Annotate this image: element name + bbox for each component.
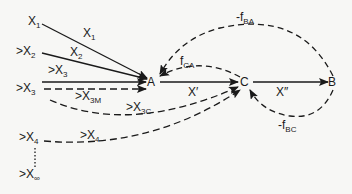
edge-label-x2: X2 bbox=[70, 46, 82, 61]
node-b: B bbox=[328, 76, 336, 88]
node-a: A bbox=[147, 76, 155, 88]
edge-label-fbc: -fBC bbox=[278, 119, 296, 134]
source-x4: >X4 bbox=[19, 131, 38, 146]
edge-fca-c-to-a bbox=[160, 66, 240, 77]
edge-label-x3m: >X3M bbox=[75, 90, 101, 105]
edge-label-x4: >X4 bbox=[80, 129, 99, 144]
source-x1: X1 bbox=[28, 15, 40, 30]
edge-label-x1: X1 bbox=[83, 27, 95, 42]
node-c: C bbox=[240, 76, 249, 88]
edge-label-x3: >X3 bbox=[48, 64, 67, 79]
source-x3: >X3 bbox=[16, 82, 35, 97]
edge-label-fca: fCA bbox=[180, 55, 194, 70]
source-xinf: >X∞ bbox=[19, 168, 40, 183]
edge-label-x3c: >X3C bbox=[126, 101, 151, 116]
edge-label-fba: -fBA bbox=[236, 11, 254, 26]
edge-label-x-double-prime: X″ bbox=[276, 86, 288, 98]
source-x2: >X2 bbox=[16, 45, 35, 60]
edge-fbc-b-to-c bbox=[250, 90, 333, 116]
edge-x4-to-c bbox=[44, 90, 240, 142]
edge-label-x-prime: X′ bbox=[188, 86, 198, 98]
diagram-canvas bbox=[0, 0, 352, 194]
